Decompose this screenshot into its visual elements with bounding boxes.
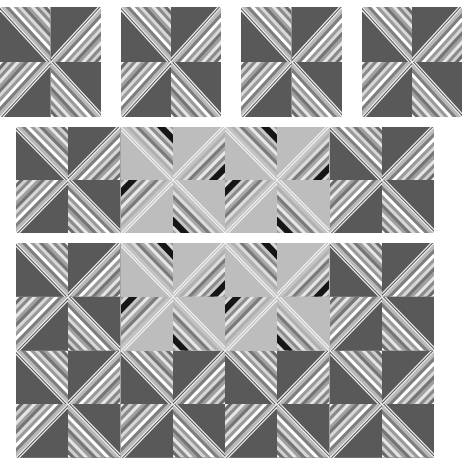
dark-half-square-triangle [330,351,382,405]
light-half-square-triangle [173,180,225,233]
dark-half-square-triangle [382,127,434,180]
light-half-square-triangle [121,127,173,180]
quilt-panel-block-3 [241,7,342,117]
dark-half-square-triangle [121,7,171,62]
dark-half-square-triangle [68,404,120,458]
dark-half-square-triangle [382,243,434,297]
dark-half-square-triangle [0,62,51,117]
dark-half-square-triangle [330,404,382,458]
light-half-square-triangle [277,180,329,233]
dark-half-square-triangle [292,7,343,62]
dark-half-square-triangle [16,180,68,233]
dark-half-square-triangle [171,7,221,62]
dark-half-square-triangle [225,404,277,458]
dark-half-square-triangle [382,351,434,405]
dark-half-square-triangle [292,62,343,117]
dark-half-square-triangle [68,180,120,233]
dark-half-square-triangle [277,404,329,458]
quilt-panel-quilt-layout [16,243,434,458]
light-half-square-triangle [173,297,225,351]
dark-half-square-triangle [0,7,51,62]
dark-half-square-triangle [51,7,102,62]
dark-half-square-triangle [330,243,382,297]
dark-half-square-triangle [68,127,120,180]
dark-half-square-triangle [68,297,120,351]
dark-half-square-triangle [362,7,412,62]
dark-half-square-triangle [121,404,173,458]
dark-half-square-triangle [362,62,412,117]
quilt-panel-border-strip [16,127,434,233]
light-half-square-triangle [277,127,329,180]
dark-half-square-triangle [16,127,68,180]
light-half-square-triangle [225,127,277,180]
dark-half-square-triangle [16,243,68,297]
dark-half-square-triangle [16,351,68,405]
light-half-square-triangle [225,243,277,297]
dark-half-square-triangle [16,297,68,351]
quilt-panel-block-4 [362,7,462,117]
dark-half-square-triangle [68,351,120,405]
light-half-square-triangle [173,127,225,180]
dark-half-square-triangle [277,351,329,405]
dark-half-square-triangle [225,351,277,405]
dark-half-square-triangle [382,180,434,233]
light-half-square-triangle [277,297,329,351]
dark-half-square-triangle [68,243,120,297]
light-half-square-triangle [121,243,173,297]
dark-half-square-triangle [382,404,434,458]
dark-half-square-triangle [51,62,102,117]
light-half-square-triangle [225,180,277,233]
dark-half-square-triangle [241,62,292,117]
dark-half-square-triangle [412,7,462,62]
dark-half-square-triangle [171,62,221,117]
quilt-panel-block-2 [121,7,221,117]
dark-half-square-triangle [173,351,225,405]
dark-half-square-triangle [330,127,382,180]
light-half-square-triangle [121,180,173,233]
dark-half-square-triangle [121,62,171,117]
light-half-square-triangle [173,243,225,297]
dark-half-square-triangle [241,7,292,62]
quilt-panel-block-1 [0,7,101,117]
light-half-square-triangle [225,297,277,351]
dark-half-square-triangle [121,351,173,405]
light-half-square-triangle [121,297,173,351]
dark-half-square-triangle [330,297,382,351]
dark-half-square-triangle [16,404,68,458]
dark-half-square-triangle [173,404,225,458]
dark-half-square-triangle [382,297,434,351]
dark-half-square-triangle [412,62,462,117]
dark-half-square-triangle [330,180,382,233]
light-half-square-triangle [277,243,329,297]
